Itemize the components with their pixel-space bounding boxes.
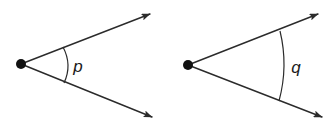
angle-q-label: q (291, 58, 301, 77)
angle-q-vertex-dot (183, 60, 193, 70)
angle-p-label: p (72, 57, 82, 76)
figure-background (0, 0, 335, 130)
angle-comparison-figure: p q (0, 0, 335, 130)
angle-p-vertex-dot (16, 59, 26, 69)
